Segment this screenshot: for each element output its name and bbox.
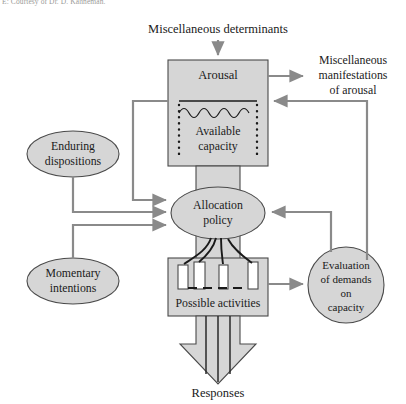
- edge-enduring-to-allocation: [73, 177, 166, 212]
- activity-slot-2: [194, 262, 205, 289]
- activity-slot-3: [219, 265, 228, 289]
- misc-manifestations-label-line1: Miscellaneous: [319, 53, 388, 67]
- evaluation-label-line4: capacity: [328, 301, 365, 313]
- allocation-policy-label-line2: policy: [203, 213, 233, 227]
- misc-manifestations-label-line2: manifestations: [319, 68, 388, 82]
- enduring-dispositions-label-line1: Enduring: [51, 139, 95, 153]
- available-capacity-label-line2: capacity: [198, 139, 237, 153]
- evaluation-label-line1: Evaluation: [322, 259, 370, 271]
- responses-label: Responses: [192, 386, 245, 400]
- edge-evaluation-to-allocation: [272, 212, 331, 252]
- edge-momentary-to-allocation: [73, 225, 166, 258]
- evaluation-label-line2: of demands: [320, 273, 371, 285]
- momentary-intentions-label-line2: intentions: [50, 281, 97, 295]
- edge-evaluation-to-arousal: [274, 101, 367, 260]
- available-capacity-label-line1: Available: [196, 124, 241, 138]
- capacity-model-figure: Arousal Available capacity Allocation po…: [0, 0, 406, 404]
- activity-slot-1: [178, 265, 188, 289]
- momentary-intentions-label-line1: Momentary: [45, 266, 100, 280]
- activity-slot-4: [248, 262, 258, 289]
- diagram-root: E: Courtesy of Dr. D. Kahneman. Arousal …: [0, 0, 406, 404]
- possible-activities-label: Possible activities: [176, 296, 261, 310]
- enduring-dispositions-label-line2: dispositions: [45, 154, 102, 168]
- misc-manifestations-label-line3: of arousal: [330, 83, 378, 97]
- edge-arousal-to-allocation: [133, 101, 168, 200]
- allocation-policy-label-line1: Allocation: [193, 198, 243, 212]
- evaluation-label-line3: on: [341, 287, 353, 299]
- arousal-label: Arousal: [198, 68, 238, 82]
- misc-determinants-label: Miscellaneous determinants: [148, 22, 288, 36]
